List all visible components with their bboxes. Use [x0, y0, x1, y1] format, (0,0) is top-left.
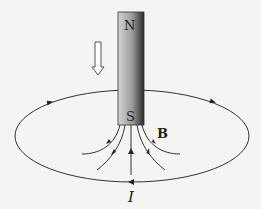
north-pole-label: N: [124, 18, 135, 33]
loop-arrow-bottom-icon: [128, 179, 134, 185]
motion-arrow-down-icon: [92, 42, 104, 75]
south-pole-label: S: [126, 109, 135, 124]
field-label-b: B: [157, 126, 168, 141]
current-label-i: I: [127, 188, 135, 206]
magnet-induction-diagram: N S B I: [0, 0, 261, 209]
